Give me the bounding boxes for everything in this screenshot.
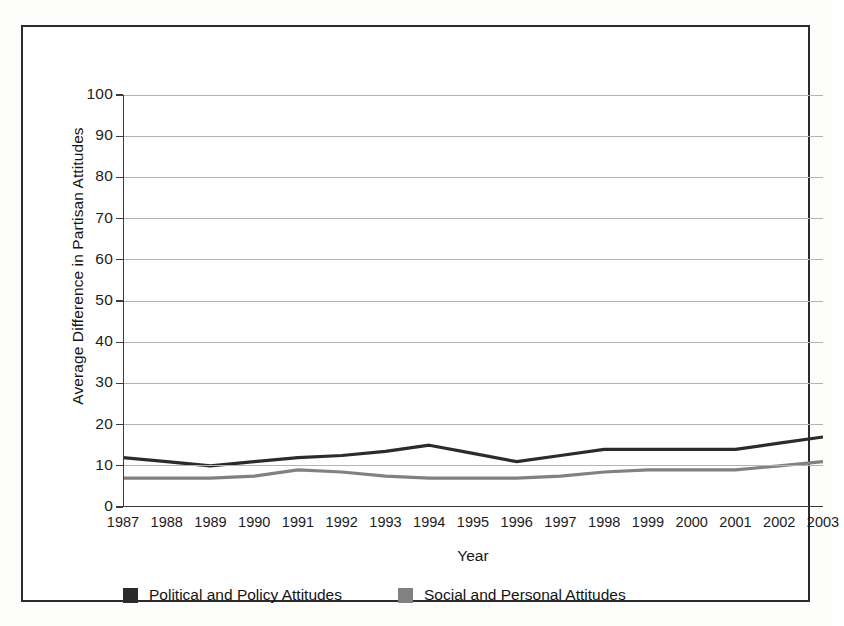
y-axis-tick-mark (116, 177, 123, 178)
legend-label: Political and Policy Attitudes (149, 586, 342, 604)
y-axis-tick-label: 50 (95, 291, 113, 309)
legend-entry: Political and Policy Attitudes (123, 586, 342, 604)
legend-label: Social and Personal Attitudes (424, 586, 626, 604)
legend-entry: Social and Personal Attitudes (398, 586, 626, 604)
plot-axis-lines (123, 95, 823, 507)
chart-legend: Political and Policy AttitudesSocial and… (123, 583, 823, 607)
y-axis-tick-mark (116, 300, 123, 301)
y-axis-tick-label: 10 (95, 456, 113, 474)
legend-swatch-icon (123, 588, 138, 603)
legend-swatch-icon (398, 588, 413, 603)
y-axis-tick-mark (116, 136, 123, 137)
y-axis-tick-mark (116, 259, 123, 260)
y-axis-tick-label: 60 (95, 250, 113, 268)
y-axis-tick-mark (116, 383, 123, 384)
y-axis-tick-label: 20 (95, 415, 113, 433)
y-axis-tick-label: 70 (95, 209, 113, 227)
y-axis-tick-label: 0 (104, 497, 113, 515)
y-axis-tick-label: 100 (87, 85, 113, 103)
y-axis-tick-labels: 0102030405060708090100 (63, 95, 113, 507)
y-axis-tick-mark (116, 424, 123, 425)
chart-outer-frame: Average Difference in Partisan Attitudes… (21, 25, 810, 602)
y-axis-tick-label: 80 (95, 167, 113, 185)
y-axis-tick-mark (116, 342, 123, 343)
plot-area (123, 95, 823, 507)
x-axis-title: Year (123, 547, 823, 565)
y-axis-tick-mark (116, 506, 123, 507)
y-axis-tick-mark (116, 218, 123, 219)
x-axis-tick-label: 2003 (795, 514, 844, 530)
y-axis-tick-mark (116, 465, 123, 466)
y-axis-tick-label: 30 (95, 373, 113, 391)
y-axis-tick-label: 40 (95, 332, 113, 350)
x-axis-tick-labels: 1987198819891990199119921993199419951996… (123, 514, 823, 536)
y-axis-tick-mark (116, 94, 123, 95)
y-axis-tick-label: 90 (95, 126, 113, 144)
